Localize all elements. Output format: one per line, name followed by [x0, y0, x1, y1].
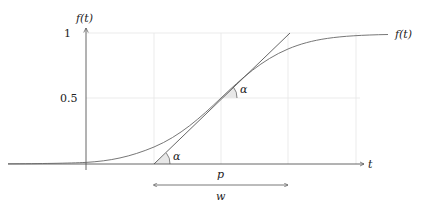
y-tick-1: 1 — [64, 27, 71, 40]
grid — [86, 33, 360, 164]
y-axis-label: f(t) — [75, 12, 93, 25]
y-tick-05: 0.5 — [60, 92, 78, 105]
width-label: w — [216, 190, 226, 203]
angle-label-top: α — [240, 83, 248, 96]
inflection-label: p — [217, 168, 224, 181]
angle-label-bottom: α — [173, 150, 181, 163]
curve-label: f(t) — [394, 28, 412, 41]
x-axis-label: t — [368, 158, 373, 171]
tangent-line — [154, 33, 290, 164]
logistic-diagram: f(t) 1 0.5 f(t) t p w α α — [0, 0, 428, 204]
